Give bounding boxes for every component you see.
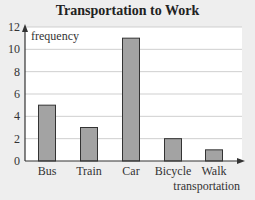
y-tick-label: 6 <box>14 87 20 101</box>
y-tick-label: 10 <box>8 42 20 56</box>
bar-car <box>123 38 140 161</box>
bar-bicycle <box>165 139 182 161</box>
x-category-label: Bus <box>38 164 57 178</box>
bar-chart: 024681012 BusTrainCarBicycleWalk frequen… <box>0 0 255 200</box>
y-tick-label: 12 <box>8 20 20 34</box>
y-tick-label: 4 <box>14 109 20 123</box>
bar-bus <box>39 105 56 161</box>
bar-train <box>81 128 98 162</box>
x-category-labels: BusTrainCarBicycleWalk <box>38 164 227 178</box>
x-category-label: Walk <box>201 164 226 178</box>
y-axis-label: frequency <box>31 29 79 43</box>
x-axis-label: transportation <box>173 179 240 193</box>
y-tick-label: 2 <box>14 132 20 146</box>
y-tick-label: 0 <box>14 154 20 168</box>
x-category-label: Bicycle <box>155 164 192 178</box>
y-tick-label: 8 <box>14 65 20 79</box>
x-category-label: Car <box>122 164 139 178</box>
y-tick-labels: 024681012 <box>8 20 20 168</box>
x-category-label: Train <box>76 164 102 178</box>
bar-walk <box>206 150 223 161</box>
